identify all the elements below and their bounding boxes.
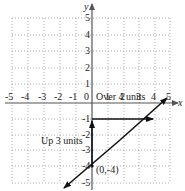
svg-text:-3: -3 [38,91,46,102]
svg-text:4: 4 [85,29,90,40]
y-intercept-point [90,164,93,167]
grid [12,18,170,183]
svg-text:-2: -2 [54,91,62,102]
svg-text:5: 5 [166,91,171,102]
svg-text:0: 0 [84,91,89,102]
x-tick-labels: -5 -4 -3 -2 -1 0 1 2 3 4 5 [5,91,171,102]
svg-text:5: 5 [85,12,90,23]
svg-text:-5: -5 [82,177,90,188]
svg-text:-1: -1 [69,91,77,102]
svg-text:-4: -4 [21,91,29,102]
svg-text:1: 1 [85,78,90,89]
svg-text:4: 4 [151,91,156,102]
svg-text:-2: -2 [82,129,90,140]
over-label: Over 4 units [96,91,146,102]
y-axis-label: y [83,1,89,12]
svg-text:-1: -1 [82,113,90,124]
svg-text:-5: -5 [5,91,13,102]
svg-text:3: 3 [85,45,90,56]
point-label: (0,-4) [96,164,119,176]
svg-text:2: 2 [85,62,90,73]
coordinate-graph: x y -5 -4 -3 -2 -1 0 1 2 3 4 5 5 4 3 2 1… [0,0,185,191]
svg-text:-3: -3 [82,144,90,155]
x-axis-label: x [177,97,183,108]
up-label: Up 3 units [41,135,83,146]
